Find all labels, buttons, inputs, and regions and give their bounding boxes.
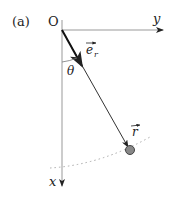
y-axis-label: y	[152, 11, 161, 26]
x-axis-label: x	[49, 174, 57, 189]
pendulum-diagram: (a) O y x e r θ r	[0, 0, 172, 207]
trajectory-arc	[50, 137, 150, 168]
origin-label: O	[48, 14, 59, 29]
position-vector-label: r	[132, 125, 139, 139]
pendulum-bob	[126, 146, 135, 155]
unit-vector-er	[62, 30, 82, 66]
unit-vector-subscript: r	[94, 50, 99, 59]
theta-arc	[62, 58, 77, 62]
panel-label: (a)	[12, 14, 30, 29]
angle-label: θ	[67, 64, 75, 78]
unit-vector-label: e	[86, 43, 93, 57]
